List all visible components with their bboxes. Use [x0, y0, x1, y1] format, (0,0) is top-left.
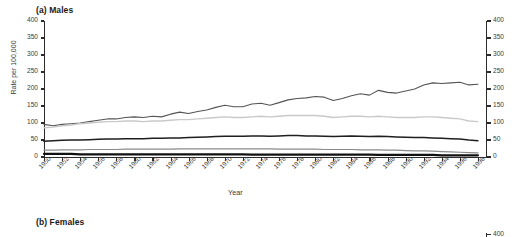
x-axis-title: Year — [228, 188, 243, 197]
y-tick-right — [487, 156, 491, 157]
y-tick-right — [487, 88, 491, 89]
plot-area-males — [44, 21, 487, 157]
y-tick-label-left: 200 — [14, 85, 38, 92]
y-tick-right — [487, 122, 491, 123]
y-tick-label-left: 100 — [14, 119, 38, 126]
y-tick-label-left: 300 — [14, 51, 38, 58]
y-tick-label-right: 250 — [493, 68, 517, 75]
line-series-3 — [44, 136, 478, 142]
x-tick-label: 1950 — [37, 155, 52, 170]
panel-a-title: (a) Males — [36, 5, 73, 15]
y-tick-label-right: 50 — [493, 136, 517, 143]
y-tick-right — [487, 20, 491, 21]
y-tick-label-right: 0 — [493, 153, 517, 160]
y-tick-label-right: 300 — [493, 51, 517, 58]
y-tick-label-right: 400 — [493, 17, 517, 24]
y-tick-right — [487, 71, 491, 72]
y-tick-label-left: 50 — [14, 136, 38, 143]
y-tick-label-right: 100 — [493, 119, 517, 126]
y-tick-right — [487, 54, 491, 55]
y-tick-right — [487, 139, 491, 140]
y-tick-right — [487, 105, 491, 106]
panel-b-title: (b) Females — [36, 217, 84, 227]
line-series-4 — [44, 149, 478, 153]
y-tick-label-right: 150 — [493, 102, 517, 109]
y-tick-label-left: 150 — [14, 102, 38, 109]
panel-b-y-label: 400 — [493, 230, 504, 237]
y-tick-label-left: 400 — [14, 17, 38, 24]
y-tick-label-left: 350 — [14, 34, 38, 41]
y-tick-label-right: 350 — [493, 34, 517, 41]
line-series-1 — [44, 82, 478, 126]
y-tick-label-right: 200 — [493, 85, 517, 92]
y-tick-right — [487, 37, 491, 38]
line-series-2 — [44, 116, 478, 128]
figure-canvas: (a) Males Rate per 100,000 Year 05010015… — [0, 0, 528, 237]
y-tick-label-left: 250 — [14, 68, 38, 75]
panel-b-y-tick — [487, 234, 491, 235]
line-series-5 — [44, 154, 478, 155]
y-tick-label-left: 0 — [14, 153, 38, 160]
